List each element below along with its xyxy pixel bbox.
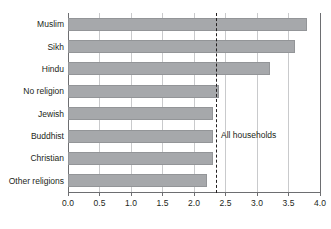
bar-no-religion (68, 85, 219, 98)
bar-jewish (68, 107, 213, 120)
tick-0.5 (99, 192, 100, 196)
tick-4.0 (320, 192, 321, 196)
tick-label-1.0: 1.0 (125, 198, 137, 208)
bar-chart: 0.00.51.01.52.02.53.03.54.0 MuslimSikhHi… (0, 0, 331, 229)
tick-3.0 (257, 192, 258, 196)
bar-other-religions (68, 174, 207, 187)
tick-label-3.5: 3.5 (283, 198, 295, 208)
category-label-hindu: Hindu (0, 64, 64, 74)
tick-2.0 (194, 192, 195, 196)
bar-sikh (68, 40, 295, 53)
all-households-reference-label: All households (221, 130, 276, 140)
all-households-reference-line (216, 13, 217, 193)
tick-0.0 (68, 192, 69, 196)
tick-label-1.5: 1.5 (157, 198, 169, 208)
bar-christian (68, 152, 213, 165)
tick-3.5 (288, 192, 289, 196)
category-label-buddhist: Buddhist (0, 131, 64, 141)
tick-label-2.5: 2.5 (220, 198, 232, 208)
tick-1.5 (162, 192, 163, 196)
tick-1.0 (131, 192, 132, 196)
bar-muslim (68, 18, 307, 31)
tick-label-3.0: 3.0 (251, 198, 263, 208)
category-label-muslim: Muslim (0, 19, 64, 29)
x-axis-line (68, 192, 321, 193)
category-label-christian: Christian (0, 153, 64, 163)
tick-label-0.5: 0.5 (94, 198, 106, 208)
tick-2.5 (225, 192, 226, 196)
bar-buddhist (68, 130, 213, 143)
category-label-sikh: Sikh (0, 42, 64, 52)
bar-hindu (68, 62, 270, 75)
tick-label-2.0: 2.0 (188, 198, 200, 208)
category-label-no-religion: No religion (0, 86, 64, 96)
category-label-jewish: Jewish (0, 109, 64, 119)
plot-area (68, 13, 320, 192)
tick-label-0.0: 0.0 (62, 198, 74, 208)
category-label-other-religions: Other religions (0, 176, 64, 186)
tick-label-4.0: 4.0 (314, 198, 326, 208)
